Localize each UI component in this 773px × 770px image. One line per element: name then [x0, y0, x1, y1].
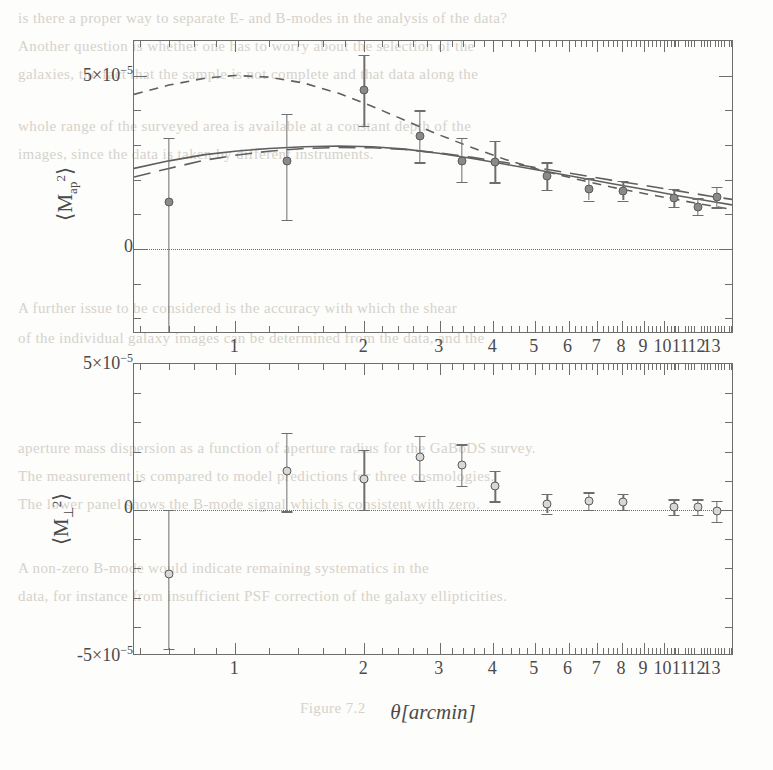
- x-tick-minor: [575, 326, 576, 332]
- x-tick-minor: [640, 648, 641, 654]
- x-tick-major: [597, 41, 598, 52]
- x-tick-minor: [648, 364, 649, 370]
- x-tick-minor: [674, 364, 675, 370]
- x-tick-minor: [194, 326, 195, 332]
- x-tick-minor: [413, 41, 414, 47]
- error-bar-cap-lower: [490, 501, 501, 502]
- data-point: [491, 482, 500, 491]
- x-tick-minor: [586, 648, 587, 654]
- x-tick-minor: [701, 364, 702, 370]
- x-tick-minor: [704, 326, 705, 332]
- y-tick-label: 5×10−5: [0, 63, 141, 86]
- zero-reference-line: [134, 510, 732, 511]
- y-axis-title-e-mode: ⟨Map2⟩: [53, 109, 81, 279]
- x-tick-major: [493, 643, 494, 654]
- x-tick-label: 10: [654, 658, 672, 679]
- x-tick-minor: [715, 364, 716, 370]
- x-tick-minor: [656, 364, 657, 370]
- x-tick-minor: [549, 364, 550, 370]
- x-tick-minor: [691, 364, 692, 370]
- x-tick-minor: [729, 364, 730, 370]
- data-point: [585, 185, 594, 194]
- x-tick-minor: [592, 364, 593, 370]
- x-tick-minor: [511, 326, 512, 332]
- x-tick-minor: [652, 364, 653, 370]
- x-tick-minor: [413, 364, 414, 370]
- y-tick-minor: [134, 481, 141, 482]
- x-tick-minor: [511, 41, 512, 47]
- x-tick-label: 5: [529, 336, 538, 357]
- panel-b-mode: [133, 363, 733, 655]
- y-tick-minor: [725, 481, 732, 482]
- x-tick-minor: [608, 326, 609, 332]
- x-tick-minor: [627, 41, 628, 47]
- x-tick-minor: [298, 326, 299, 332]
- y-tick-minor: [725, 145, 732, 146]
- x-tick-minor: [656, 648, 657, 654]
- x-tick-minor: [542, 364, 543, 370]
- x-tick-minor: [636, 326, 637, 332]
- x-tick-minor: [519, 364, 520, 370]
- x-tick-major: [493, 321, 494, 332]
- x-tick-major: [364, 643, 365, 654]
- data-point: [164, 198, 173, 207]
- x-tick-major: [364, 41, 365, 52]
- x-tick-minor: [608, 364, 609, 370]
- x-tick-minor: [298, 364, 299, 370]
- x-tick-minor: [427, 41, 428, 47]
- x-tick-minor: [608, 41, 609, 47]
- x-tick-minor: [323, 364, 324, 370]
- x-tick-minor: [631, 41, 632, 47]
- x-tick-minor: [398, 648, 399, 654]
- x-tick-minor: [603, 326, 604, 332]
- x-tick-minor: [452, 648, 453, 654]
- error-bar-cap-upper: [359, 450, 370, 451]
- zero-reference-line: [134, 249, 732, 250]
- x-tick-minor: [519, 41, 520, 47]
- x-tick-minor: [413, 648, 414, 654]
- error-bar-cap-lower: [618, 201, 629, 202]
- x-tick-minor: [617, 648, 618, 654]
- data-point: [360, 475, 369, 484]
- x-tick-major: [622, 364, 623, 375]
- x-tick-minor: [627, 326, 628, 332]
- y-tick-minor: [725, 180, 732, 181]
- x-tick-label: 8: [617, 658, 626, 679]
- x-tick-major: [440, 321, 441, 332]
- x-tick-minor: [667, 648, 668, 654]
- y-tick-label: -5×10−5: [0, 643, 141, 666]
- x-tick-minor: [631, 326, 632, 332]
- y-tick-minor: [134, 284, 141, 285]
- y-tick-minor: [725, 627, 732, 628]
- x-tick-minor: [345, 41, 346, 47]
- x-tick-minor: [685, 364, 686, 370]
- error-bar-cap-upper: [711, 187, 722, 188]
- x-tick-minor: [586, 326, 587, 332]
- error-bar-cap-lower: [584, 510, 595, 511]
- error-bar-cap-lower: [456, 486, 467, 487]
- x-tick-minor: [729, 326, 730, 332]
- plot-area-e-mode: [134, 41, 732, 332]
- x-tick-minor: [140, 326, 141, 332]
- y-tick-minor: [725, 284, 732, 285]
- x-tick-minor: [527, 41, 528, 47]
- x-tick-minor: [701, 326, 702, 332]
- x-tick-minor: [674, 326, 675, 332]
- x-tick-minor: [527, 326, 528, 332]
- error-bar-cap-upper: [669, 499, 680, 500]
- x-tick-minor: [704, 41, 705, 47]
- data-point: [457, 460, 466, 469]
- x-tick-minor: [581, 648, 582, 654]
- x-tick-major: [235, 364, 236, 375]
- error-bar-cap-upper: [490, 471, 501, 472]
- y-tick-label: 5×10−5: [0, 351, 141, 374]
- x-tick-minor: [656, 41, 657, 47]
- x-tick-label: 13: [702, 336, 720, 357]
- x-tick-major: [644, 643, 645, 654]
- x-tick-minor: [656, 326, 657, 332]
- x-tick-minor: [694, 326, 695, 332]
- y-tick-major: [719, 76, 732, 77]
- error-bar-cap-upper: [359, 55, 370, 56]
- x-tick-minor: [345, 648, 346, 654]
- y-tick-minor: [725, 452, 732, 453]
